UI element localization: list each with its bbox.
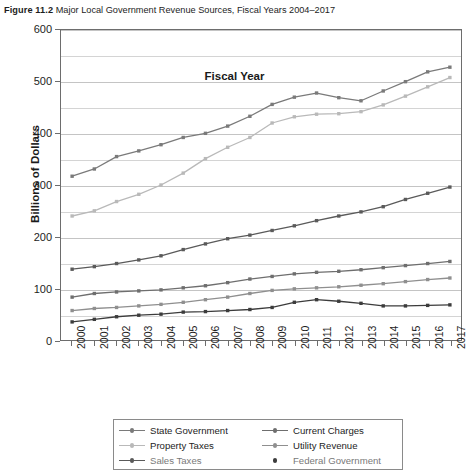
y-tick-label-400: 400 [12,127,52,139]
legend-swatch-icon [262,441,288,451]
data-point [159,143,162,146]
data-point [404,94,407,97]
data-point [337,300,340,303]
data-point [293,95,296,98]
data-point [159,254,162,257]
data-point [204,284,207,287]
chart: Billions of Dollars 0100200300400500600 … [0,18,469,348]
data-point [204,310,207,313]
x-tick-mark-2010 [295,341,296,346]
x-tick-label-2005: 2005 [187,326,199,349]
data-point [270,306,273,309]
data-point [115,155,118,158]
legend-item-property-taxes[interactable]: Property Taxes [119,438,259,453]
data-point [448,66,451,69]
x-tick-mark-2013 [362,341,363,346]
x-tick-label-2016: 2016 [433,326,445,349]
data-point [93,307,96,310]
legend-swatch-icon [119,426,145,436]
data-point [270,289,273,292]
data-point [115,315,118,318]
data-point [93,209,96,212]
legend-label: Property Taxes [150,440,214,451]
data-point [137,289,140,292]
data-point [70,320,73,323]
data-point [293,115,296,118]
x-tick-mark-2016 [429,341,430,346]
data-point [182,136,185,139]
data-point [382,205,385,208]
data-point [182,301,185,304]
data-point [337,96,340,99]
data-point [426,192,429,195]
data-point [315,298,318,301]
x-tick-mark-2005 [183,341,184,346]
data-point [359,110,362,113]
data-point [382,89,385,92]
series-line [72,187,450,269]
x-tick-label-2006: 2006 [209,326,221,349]
x-tick-label-2004: 2004 [165,326,177,349]
data-point [159,312,162,315]
x-tick-mark-2002 [116,341,117,346]
x-tick-label-2002: 2002 [120,326,132,349]
legend-item-federal-government[interactable]: Federal Government [262,453,402,468]
x-tick-mark-2004 [161,341,162,346]
x-axis: 2000200120022003200420052006200720082009… [60,341,462,401]
data-point [337,285,340,288]
legend-label: State Government [150,425,228,436]
data-point [226,295,229,298]
data-point [426,262,429,265]
data-point [226,146,229,149]
legend-item-current-charges[interactable]: Current Charges [262,423,402,438]
x-tick-label-2008: 2008 [254,326,266,349]
data-point [315,271,318,274]
data-point [382,304,385,307]
data-point [293,272,296,275]
x-tick-label-2013: 2013 [366,326,378,349]
data-point [448,260,451,263]
data-point [270,275,273,278]
data-point [404,304,407,307]
data-point [270,103,273,106]
figure-caption: Figure 11.2 Major Local Government Reven… [4,4,466,16]
data-point [226,237,229,240]
data-point [137,258,140,261]
data-point [448,185,451,188]
data-point [248,115,251,118]
x-tick-label-2010: 2010 [299,326,311,349]
data-point [426,85,429,88]
data-point [137,193,140,196]
data-point [70,309,73,312]
data-point [93,265,96,268]
data-point [70,175,73,178]
data-point [115,200,118,203]
x-axis-title: Fiscal Year [0,70,469,82]
data-point [359,284,362,287]
data-point [248,136,251,139]
data-point [337,214,340,217]
data-point [359,99,362,102]
chart-legend: State GovernmentProperty TaxesSales Taxe… [113,419,403,470]
legend-item-utility-revenue[interactable]: Utility Revenue [262,438,402,453]
series-line [72,67,450,176]
data-point [137,304,140,307]
x-tick-label-2000: 2000 [75,326,87,349]
data-point [382,266,385,269]
legend-item-state-government[interactable]: State Government [119,423,259,438]
data-point [404,198,407,201]
y-tick-label-600: 600 [12,23,52,35]
data-point [359,268,362,271]
data-point [426,304,429,307]
data-point [204,242,207,245]
data-point [204,157,207,160]
x-tick-mark-2015 [406,341,407,346]
data-point [159,183,162,186]
series-federal-government [70,298,451,324]
data-point [115,290,118,293]
figure-label: Figure 11.2 [4,5,53,15]
x-tick-mark-2007 [228,341,229,346]
data-point [115,306,118,309]
legend-item-sales-taxes[interactable]: Sales Taxes [119,453,259,468]
legend-label: Federal Government [293,455,381,466]
